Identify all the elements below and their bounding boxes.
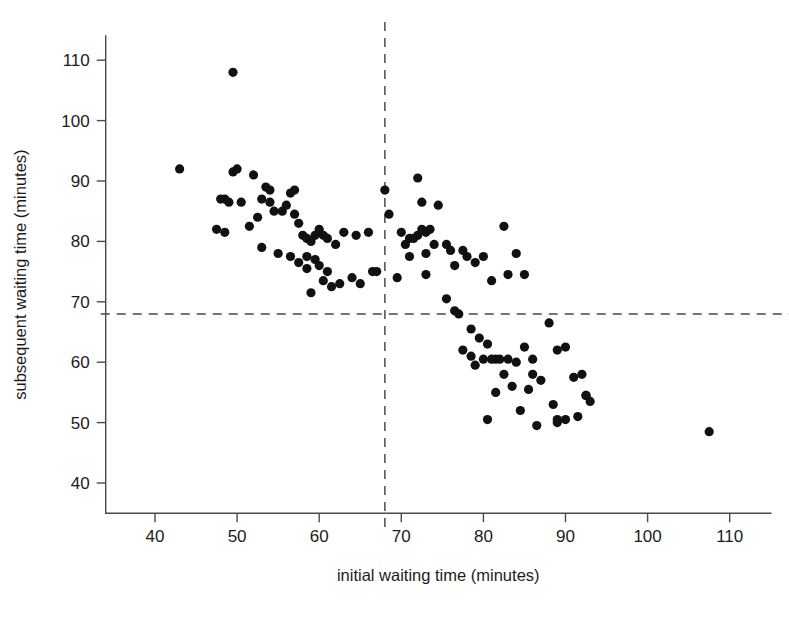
data-point: [413, 173, 422, 182]
data-point: [487, 276, 496, 285]
data-point: [512, 358, 521, 367]
data-point: [249, 170, 258, 179]
data-point: [265, 185, 274, 194]
data-point: [573, 412, 582, 421]
data-point: [417, 198, 426, 207]
data-point: [499, 222, 508, 231]
data-point: [491, 388, 500, 397]
data-point: [331, 240, 340, 249]
data-point: [265, 198, 274, 207]
axis-spine: [106, 36, 771, 513]
data-point: [520, 343, 529, 352]
data-point: [237, 198, 246, 207]
x-tick-label: 40: [146, 527, 165, 546]
x-tick-label: 60: [310, 527, 329, 546]
data-point: [233, 164, 242, 173]
data-point: [352, 231, 361, 240]
data-point: [434, 201, 443, 210]
data-point: [421, 249, 430, 258]
data-point: [368, 267, 377, 276]
data-point: [253, 213, 262, 222]
data-point: [257, 243, 266, 252]
scatter-plot-canvas: 405060708090100110405060708090100110init…: [0, 0, 789, 617]
data-point: [425, 225, 434, 234]
data-point: [327, 282, 336, 291]
data-point: [512, 249, 521, 258]
data-point: [454, 309, 463, 318]
data-point: [339, 228, 348, 237]
reference-lines: [101, 22, 789, 527]
data-point: [401, 240, 410, 249]
data-point: [475, 333, 484, 342]
data-point: [380, 185, 389, 194]
data-point: [528, 370, 537, 379]
data-point: [462, 252, 471, 261]
data-point: [294, 219, 303, 228]
data-point: [315, 261, 324, 270]
plot-axes: [106, 36, 771, 513]
x-tick-label: 90: [556, 527, 575, 546]
data-point: [421, 270, 430, 279]
data-point: [471, 258, 480, 267]
y-tick-label: 50: [71, 414, 90, 433]
data-point: [306, 288, 315, 297]
y-tick-label: 40: [71, 474, 90, 493]
data-point: [212, 225, 221, 234]
y-tick-label: 70: [71, 293, 90, 312]
data-point: [508, 382, 517, 391]
x-tick-label: 50: [228, 527, 247, 546]
data-point: [528, 355, 537, 364]
data-point: [581, 391, 590, 400]
data-point: [446, 246, 455, 255]
data-point: [471, 361, 480, 370]
x-tick-label: 100: [633, 527, 661, 546]
data-point: [495, 355, 504, 364]
data-point: [319, 276, 328, 285]
data-point: [705, 427, 714, 436]
data-point: [430, 240, 439, 249]
data-point: [220, 228, 229, 237]
data-point: [323, 267, 332, 276]
data-point: [302, 252, 311, 261]
x-axis-title: initial waiting time (minutes): [337, 566, 540, 584]
data-point: [356, 279, 365, 288]
data-point: [364, 228, 373, 237]
y-tick-label: 100: [61, 112, 89, 131]
data-point: [536, 376, 545, 385]
data-point: [397, 228, 406, 237]
data-point: [503, 355, 512, 364]
data-point: [302, 264, 311, 273]
data-point: [393, 273, 402, 282]
data-point: [499, 370, 508, 379]
x-tick-label: 80: [474, 527, 493, 546]
data-point: [577, 370, 586, 379]
data-point: [549, 400, 558, 409]
data-point: [561, 415, 570, 424]
data-point: [323, 234, 332, 243]
data-point: [553, 346, 562, 355]
data-point: [520, 270, 529, 279]
y-tick-label: 90: [71, 172, 90, 191]
data-point: [516, 406, 525, 415]
data-point: [294, 258, 303, 267]
data-point: [524, 385, 533, 394]
data-point: [569, 373, 578, 382]
y-tick-label: 110: [63, 51, 90, 70]
data-point: [458, 346, 467, 355]
data-point: [224, 198, 233, 207]
data-point: [450, 261, 459, 270]
data-point: [479, 252, 488, 261]
data-point: [228, 68, 237, 77]
data-point: [483, 415, 492, 424]
x-tick-label: 70: [392, 527, 411, 546]
data-point: [286, 252, 295, 261]
data-point: [384, 210, 393, 219]
data-point: [553, 418, 562, 427]
data-point: [175, 164, 184, 173]
data-point: [466, 352, 475, 361]
data-point: [335, 279, 344, 288]
data-point: [257, 195, 266, 204]
data-point: [483, 339, 492, 348]
data-point-layer: [175, 68, 714, 437]
data-point: [245, 222, 254, 231]
